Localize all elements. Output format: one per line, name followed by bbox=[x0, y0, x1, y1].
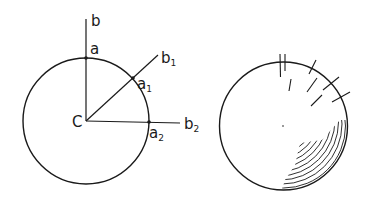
ray-b2 bbox=[86, 121, 180, 123]
figure: C b b1 b2 a a1 a2 bbox=[0, 0, 367, 207]
label-b: b bbox=[91, 12, 101, 30]
label-b1: b1 bbox=[161, 49, 176, 68]
point-a1 bbox=[131, 76, 135, 80]
point-a bbox=[84, 56, 88, 60]
label-a: a bbox=[90, 40, 99, 58]
label-a2: a2 bbox=[149, 124, 164, 143]
sphere-center-dot bbox=[282, 125, 284, 127]
left-diagram bbox=[23, 19, 180, 184]
label-a1: a1 bbox=[137, 75, 152, 94]
right-diagram bbox=[220, 54, 351, 190]
center-label: C bbox=[72, 113, 82, 131]
label-b2: b2 bbox=[184, 115, 199, 134]
